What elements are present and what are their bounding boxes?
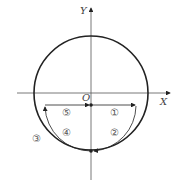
region-label-4: ④ xyxy=(62,128,71,138)
region-label-3: ③ xyxy=(32,134,41,144)
region-label-5: ⑤ xyxy=(62,108,71,118)
region-label-1: ① xyxy=(110,108,119,118)
bottom-point xyxy=(89,149,93,153)
x-axis-label: X xyxy=(160,97,167,107)
y-axis-label: Y xyxy=(80,6,87,16)
center-point xyxy=(89,103,93,107)
origin-label: O xyxy=(82,93,90,103)
region-label-2: ② xyxy=(110,128,119,138)
diagram-canvas xyxy=(0,0,183,189)
